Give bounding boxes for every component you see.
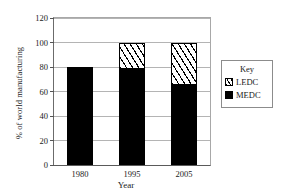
legend-swatch-ledc-icon: [225, 78, 233, 86]
x-axis-tick-label: 2005: [176, 169, 193, 179]
y-axis-tick-label: 80: [40, 62, 49, 72]
bar-segment-ledc[interactable]: [171, 43, 197, 86]
bar-segment-medc[interactable]: [67, 67, 93, 165]
plot-area: 120100806040200 198019952005: [53, 17, 211, 166]
y-axis-tick-label: 0: [44, 160, 48, 170]
bar-stack[interactable]: [119, 18, 145, 165]
y-axis-tick-label: 100: [35, 38, 48, 48]
chart-legend: Key LEDC MEDC: [221, 60, 273, 108]
legend-label-ledc: LEDC: [236, 77, 258, 87]
legend-item-medc[interactable]: MEDC: [222, 90, 272, 100]
legend-title: Key: [222, 64, 272, 74]
bar-stack[interactable]: [67, 18, 93, 165]
x-axis-tick-label: 1980: [72, 169, 89, 179]
y-axis-tick: [50, 42, 54, 43]
legend-swatch-medc-icon: [225, 91, 233, 99]
legend-item-ledc[interactable]: LEDC: [222, 77, 272, 87]
bar-segment-medc[interactable]: [171, 85, 197, 165]
y-axis-tick: [50, 140, 54, 141]
bar-segment-ledc[interactable]: [119, 43, 145, 70]
y-axis-tick-label: 40: [40, 111, 49, 121]
y-axis-tick: [50, 67, 54, 68]
x-axis-tick-label: 1995: [124, 169, 141, 179]
bar-stack[interactable]: [171, 18, 197, 165]
bar-segment-medc[interactable]: [119, 69, 145, 165]
x-axis-title: Year: [36, 180, 216, 190]
legend-label-medc: MEDC: [236, 90, 261, 100]
y-axis-tick-label: 60: [40, 87, 49, 97]
y-axis-tick: [50, 91, 54, 92]
y-axis-tick: [50, 116, 54, 117]
y-axis-tick: [50, 18, 54, 19]
y-axis-tick-label: 20: [40, 136, 49, 146]
chart-figure: % of world manufacturing 120100806040200…: [0, 0, 285, 196]
y-axis-tick: [50, 165, 54, 166]
y-axis-tick-label: 120: [35, 13, 48, 23]
y-axis-title: % of world manufacturing: [14, 18, 24, 168]
